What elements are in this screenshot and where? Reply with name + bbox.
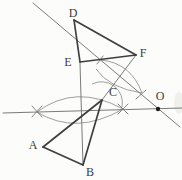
label-F: F — [140, 46, 147, 60]
geometry-figure: DEFCOAB — [0, 0, 182, 180]
label-O: O — [156, 89, 165, 103]
label-A: A — [29, 138, 38, 152]
label-D: D — [69, 6, 78, 20]
label-B: B — [86, 165, 94, 179]
label-C: C — [109, 85, 117, 99]
point-O-dot — [156, 107, 160, 111]
figure-container: DEFCOAB — [0, 0, 182, 180]
label-E: E — [64, 55, 71, 69]
